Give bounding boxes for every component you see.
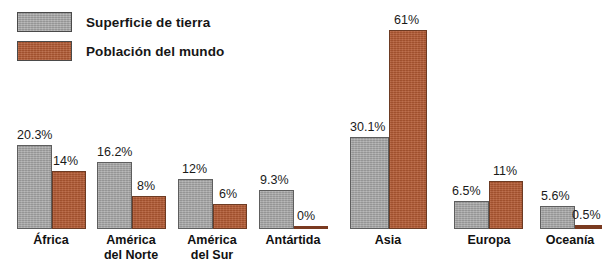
bar-asia-poblacion <box>389 30 427 229</box>
bar-oceania-superficie <box>540 206 575 229</box>
value-label-america-del-sur-superficie: 12% <box>182 163 207 176</box>
bar-group-antartida: 9.3%0% <box>259 0 327 229</box>
value-label-asia-poblacion: 61% <box>394 14 419 27</box>
value-label-america-del-norte-superficie: 16.2% <box>97 146 132 159</box>
bar-chart: Superficie de tierra Población del mundo… <box>0 0 602 264</box>
bar-group-america-del-norte: 16.2%8% <box>97 0 165 229</box>
bar-africa-superficie <box>17 145 52 229</box>
plot-area: 20.3%14%16.2%8%12%6%9.3%0%30.1%61%6.5%11… <box>0 0 602 229</box>
bar-europa-poblacion <box>489 181 523 229</box>
bar-europa-superficie <box>454 201 489 229</box>
value-label-europa-poblacion: 11% <box>493 165 517 178</box>
value-label-africa-superficie: 20.3% <box>17 129 52 142</box>
bar-america-del-sur-superficie <box>178 179 213 229</box>
bar-group-asia: 30.1%61% <box>350 0 427 229</box>
value-label-oceania-poblacion: 0.5% <box>572 209 601 222</box>
value-label-antartida-poblacion: 0% <box>297 210 315 223</box>
bar-america-del-sur-poblacion <box>213 204 247 229</box>
value-label-america-del-norte-poblacion: 8% <box>137 180 155 193</box>
category-label-oceania: Oceanía <box>534 233 602 248</box>
category-label-asia: Asia <box>348 233 428 248</box>
bars-america-del-norte <box>97 162 166 229</box>
bar-oceania-poblacion <box>575 225 602 229</box>
bar-america-del-norte-superficie <box>97 162 132 229</box>
category-label-america-del-sur: América del Sur <box>167 233 257 263</box>
value-label-asia-superficie: 30.1% <box>350 121 385 134</box>
category-label-america-del-norte: América del Norte <box>86 233 176 263</box>
bar-america-del-norte-poblacion <box>132 196 166 229</box>
bar-group-africa: 20.3%14% <box>17 0 85 229</box>
value-label-antartida-superficie: 9.3% <box>260 174 289 187</box>
value-label-oceania-superficie: 5.6% <box>541 190 570 203</box>
value-label-america-del-sur-poblacion: 6% <box>219 188 237 201</box>
bar-antartida-superficie <box>259 190 294 229</box>
category-label-africa: África <box>6 233 96 248</box>
bar-africa-poblacion <box>52 171 86 229</box>
bar-group-oceania: 5.6%0.5% <box>540 0 602 229</box>
bar-asia-superficie <box>350 137 389 229</box>
bar-antartida-poblacion <box>294 226 328 229</box>
bars-antartida <box>259 190 328 229</box>
bar-group-america-del-sur: 12%6% <box>178 0 246 229</box>
category-label-antartida: Antártida <box>248 233 338 248</box>
value-label-africa-poblacion: 14% <box>53 155 78 168</box>
bar-group-europa: 6.5%11% <box>454 0 522 229</box>
category-label-europa: Europa <box>453 233 525 248</box>
value-label-europa-superficie: 6.5% <box>452 185 481 198</box>
